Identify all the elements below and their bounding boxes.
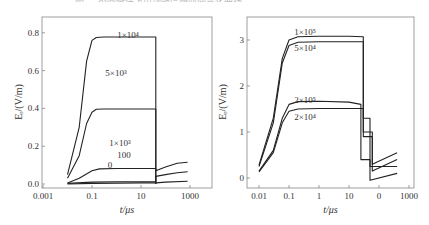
series-line	[68, 162, 188, 183]
series-annotation: 1×10⁴	[117, 30, 139, 40]
y-tick-label: 0.2	[28, 141, 39, 151]
series-annotation: 2×10⁵	[294, 95, 316, 105]
chart-canvas: 0.0010.11010000.00.20.40.60.8t/μsEᵣ/(V/m…	[0, 0, 429, 225]
series-line	[259, 42, 397, 171]
chart-panel-right: 0.010.1110010000123t/μsEᵣ/(V/m)1×10⁵5×10…	[217, 17, 419, 215]
x-tick-label: 0.1	[283, 191, 294, 201]
y-tick-label: 0.8	[28, 28, 40, 38]
x-tick-label: 0.001	[33, 191, 53, 201]
x-tick-label: 10	[137, 191, 147, 201]
series-annotation: 100	[117, 150, 131, 160]
series-annotation: 5×10³	[105, 68, 127, 78]
x-tick-label: 0	[377, 191, 382, 201]
series-annotation: 2×10⁴	[294, 112, 316, 122]
x-tick-label: 1000	[181, 191, 200, 201]
series-line	[259, 36, 397, 165]
series-annotation: 0	[108, 160, 113, 170]
series-annotation: 5×10⁴	[294, 43, 316, 53]
series-annotation: 1×10³	[109, 138, 131, 148]
x-tick-label: 10	[345, 191, 355, 201]
y-tick-label: 1	[240, 127, 245, 137]
figure: 图 — 不同条件下电场强度随时间变化曲线 0.0010.11010000.00.…	[0, 0, 429, 225]
x-tick-label: 0.1	[86, 191, 97, 201]
y-tick-label: 0.6	[28, 66, 40, 76]
series-annotation: 1×10⁵	[294, 27, 316, 37]
x-tick-label: 1000	[400, 191, 419, 201]
y-axis-label: Eᵣ/(V/m)	[217, 84, 229, 120]
x-axis-label: t/μs	[323, 204, 338, 215]
series-line	[259, 101, 397, 171]
plot-frame	[247, 17, 414, 188]
y-tick-label: 0	[240, 173, 245, 183]
y-tick-label: 0.4	[28, 103, 40, 113]
y-tick-label: 2	[240, 81, 245, 91]
x-axis-label: t/μs	[120, 204, 135, 215]
y-tick-label: 0.0	[28, 179, 40, 189]
x-tick-label: 1	[317, 191, 322, 201]
chart-panel-left: 0.0010.11010000.00.20.40.60.8t/μsEᵣ/(V/m…	[13, 17, 212, 215]
y-tick-label: 3	[240, 35, 245, 45]
x-tick-label: 0.01	[251, 191, 267, 201]
y-axis-label: Eᵣ/(V/m)	[13, 84, 25, 120]
figure-caption: 图 — 不同条件下电场强度随时间变化曲线	[75, 0, 365, 2]
